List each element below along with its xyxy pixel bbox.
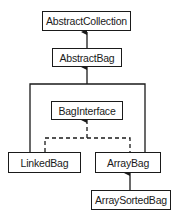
node-linked-bag: LinkedBag <box>8 152 81 173</box>
node-bag-interface: BagInterface <box>51 101 123 120</box>
node-array-sorted-bag: ArraySortedBag <box>91 190 171 210</box>
node-abstract-collection: AbstractCollection <box>42 11 131 31</box>
node-abstract-bag: AbstractBag <box>52 48 122 67</box>
node-array-bag: ArrayBag <box>95 152 161 173</box>
edge-implements-baginterface <box>45 138 130 152</box>
node-label: ArrayBag <box>107 157 149 169</box>
node-label: AbstractCollection <box>46 15 127 27</box>
node-label: ArraySortedBag <box>95 194 167 206</box>
node-label: AbstractBag <box>60 52 115 64</box>
node-label: LinkedBag <box>21 157 69 169</box>
node-label: BagInterface <box>58 105 115 117</box>
